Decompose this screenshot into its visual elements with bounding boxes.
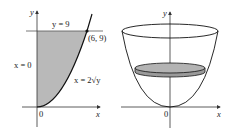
right-graph: y 0 x [121,8,221,128]
disk-slice-top [135,63,205,73]
line-top-label: y = 9 [52,19,70,29]
shaded-region [37,31,87,107]
point-label: (6, 9) [88,33,107,43]
x-axis-label-right: x [216,109,221,119]
y-axis-label-right: y [162,8,167,18]
origin-label-left: 0 [39,109,43,119]
curve-label: x = 2√y [74,75,101,85]
y-axis-label-left: y [29,7,34,17]
left-graph: y y = 9 (6, 9) x = 0 x = 2√y 0 x [14,7,107,127]
figure-canvas: y y = 9 (6, 9) x = 0 x = 2√y 0 x y 0 x [0,0,251,135]
origin-label-right: 0 [164,109,168,119]
left-boundary-label: x = 0 [14,60,32,70]
x-axis-label-left: x [95,109,100,119]
